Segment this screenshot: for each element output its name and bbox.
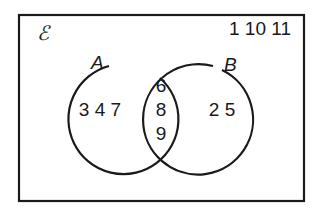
universal-set-symbol: ℰ <box>37 21 51 45</box>
outside-elements: 1 10 11 <box>229 18 291 39</box>
intersection-element: 9 <box>156 123 167 144</box>
set-a-label: A <box>90 52 104 73</box>
set-b-only-elements: 2 5 <box>209 99 235 120</box>
set-a-only-elements: 3 4 7 <box>79 99 121 120</box>
intersection-element: 8 <box>156 99 167 120</box>
set-b-label: B <box>224 54 237 75</box>
intersection-element: 6 <box>156 75 167 96</box>
venn-diagram: ℰ 1 10 11 A B 3 4 7 2 5 6 8 9 <box>0 0 323 210</box>
